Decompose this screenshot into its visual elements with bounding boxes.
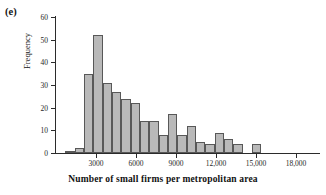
x-tick-label: 3000 bbox=[74, 159, 118, 168]
histogram-bar bbox=[215, 133, 224, 153]
histogram-bar bbox=[187, 126, 196, 153]
x-tick-mark bbox=[256, 154, 257, 158]
x-tick-mark bbox=[136, 154, 137, 158]
x-tick-mark bbox=[296, 154, 297, 158]
y-axis-title: Frequency bbox=[22, 16, 32, 86]
y-tick-label: 10 bbox=[28, 126, 48, 135]
y-tick-label: 50 bbox=[28, 35, 48, 44]
histogram-bar bbox=[205, 144, 214, 153]
x-tick-mark bbox=[176, 154, 177, 158]
histogram-bar bbox=[159, 135, 168, 153]
histogram-bar bbox=[177, 135, 186, 153]
y-tick-mark bbox=[51, 130, 55, 131]
histogram-bar bbox=[93, 35, 102, 153]
y-tick-label: 30 bbox=[28, 81, 48, 90]
histogram-bar bbox=[75, 148, 84, 153]
histogram-bar bbox=[196, 142, 205, 153]
histogram-bar bbox=[112, 92, 121, 153]
y-tick-mark bbox=[51, 108, 55, 109]
histogram-bar bbox=[149, 121, 158, 153]
x-tick-mark bbox=[96, 154, 97, 158]
histogram-bar bbox=[121, 99, 130, 153]
panel-label: (e) bbox=[5, 6, 17, 17]
histogram-bar bbox=[233, 144, 242, 153]
y-tick-mark bbox=[51, 153, 55, 154]
histogram-bar bbox=[103, 83, 112, 153]
x-tick-mark bbox=[216, 154, 217, 158]
histogram-figure: (e) Frequency Number of small firms per … bbox=[0, 0, 326, 195]
histogram-bar bbox=[168, 114, 177, 153]
x-axis-title: Number of small firms per metropolitan a… bbox=[0, 174, 326, 184]
histogram-bar bbox=[84, 74, 93, 153]
histogram-bar bbox=[252, 144, 261, 153]
x-tick-label: 6000 bbox=[114, 159, 158, 168]
y-axis-line bbox=[55, 16, 56, 154]
x-tick-label: 12,000 bbox=[194, 159, 238, 168]
x-tick-label: 9000 bbox=[154, 159, 198, 168]
x-tick-label: 18,000 bbox=[274, 159, 318, 168]
y-tick-label: 60 bbox=[28, 13, 48, 22]
y-tick-mark bbox=[51, 40, 55, 41]
x-axis-line bbox=[55, 153, 320, 154]
y-tick-label: 40 bbox=[28, 58, 48, 67]
histogram-bar bbox=[131, 103, 140, 153]
histogram-bar bbox=[224, 139, 233, 153]
y-tick-mark bbox=[51, 85, 55, 86]
histogram-bar bbox=[140, 121, 149, 153]
y-tick-label: 0 bbox=[28, 149, 48, 158]
x-tick-label: 15,000 bbox=[234, 159, 278, 168]
y-tick-mark bbox=[51, 17, 55, 18]
y-tick-label: 20 bbox=[28, 103, 48, 112]
y-tick-mark bbox=[51, 62, 55, 63]
histogram-bar bbox=[65, 151, 74, 153]
